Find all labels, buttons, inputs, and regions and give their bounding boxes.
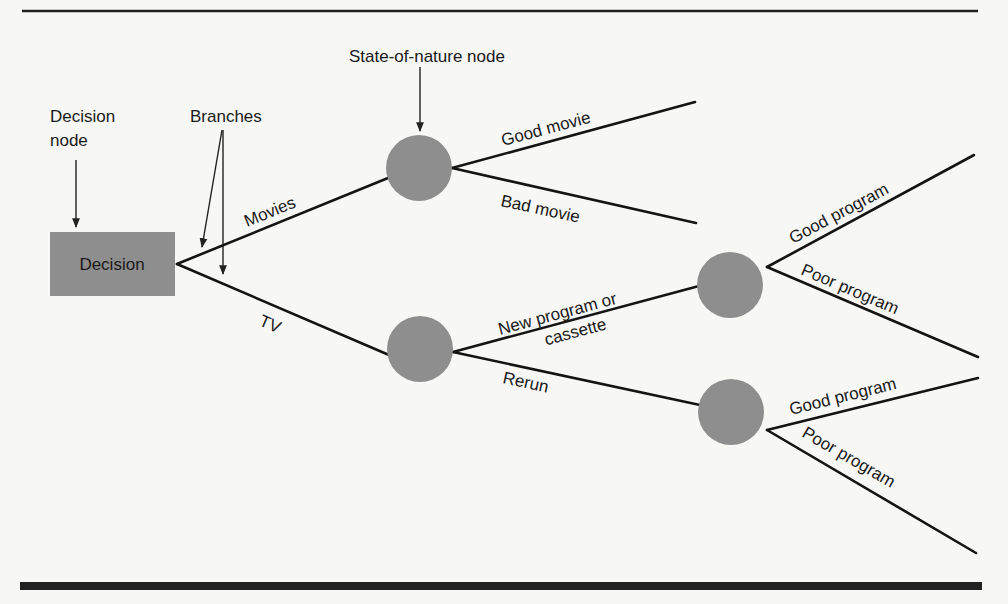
annotation-branches: Branches: [190, 107, 262, 126]
branch-upper-poor-program: [767, 267, 978, 357]
state-node-rerun: [698, 379, 764, 445]
state-node-movies: [386, 135, 452, 201]
branch-rerun: [453, 352, 700, 405]
annotation-decision-node-line1: Decision: [50, 107, 115, 126]
label-upper-good-program: Good program: [786, 179, 892, 247]
annotation-decision-node-line2: node: [50, 131, 88, 150]
branch-new-program: [453, 286, 699, 352]
state-node-new-program: [697, 252, 763, 318]
label-bad-movie: Bad movie: [499, 191, 582, 226]
label-upper-poor-program: Poor program: [798, 260, 901, 318]
label-tv: TV: [256, 311, 284, 337]
decision-node-label: Decision: [79, 255, 144, 274]
branch-tv: [177, 264, 389, 355]
annotation-decision-node: Decision node: [50, 107, 120, 150]
branches-arrow-movies: [202, 130, 222, 247]
branch-lower-poor-program: [767, 430, 976, 553]
branch-upper-good-program: [767, 155, 974, 267]
state-node-tv: [387, 316, 453, 382]
annotation-state-of-nature-node: State-of-nature node: [349, 47, 505, 66]
decision-tree-diagram: Decision node Branches State-of-nature n…: [0, 0, 1008, 604]
branch-movies: [177, 178, 388, 264]
